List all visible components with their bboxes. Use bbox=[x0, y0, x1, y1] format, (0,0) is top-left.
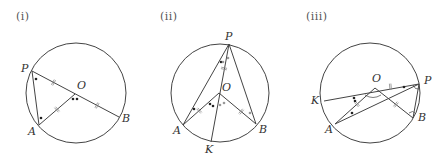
equal-tick-mark bbox=[391, 84, 392, 90]
figure-ii bbox=[171, 44, 269, 142]
point-label-A: A bbox=[172, 124, 181, 137]
segment-OB bbox=[375, 88, 413, 118]
segment-AO bbox=[335, 88, 375, 124]
angle-dot-marker bbox=[35, 78, 38, 81]
point-label-B: B bbox=[417, 111, 426, 124]
point-label-A: A bbox=[27, 125, 36, 138]
angle-dot-marker bbox=[219, 104, 222, 107]
circle bbox=[26, 43, 126, 143]
angle-dot-marker bbox=[227, 57, 230, 60]
point-label-P: P bbox=[423, 74, 432, 87]
point-label-B: B bbox=[121, 112, 130, 125]
angle-dot-marker bbox=[351, 112, 354, 115]
angle-dot-marker bbox=[76, 98, 79, 101]
angle-dot-marker bbox=[223, 102, 226, 105]
point-label-A: A bbox=[324, 123, 333, 136]
segment-PB bbox=[32, 71, 119, 117]
angle-dot-marker bbox=[354, 100, 357, 103]
segment-AO bbox=[39, 94, 75, 125]
point-label-K: K bbox=[204, 143, 214, 154]
angle-dot-marker bbox=[209, 103, 212, 106]
point-label-O: O bbox=[77, 79, 86, 92]
equal-tick-mark bbox=[389, 84, 390, 90]
point-label-O: O bbox=[222, 81, 231, 94]
geometry-figures: PAOBPAOBKPAOBK bbox=[0, 0, 448, 154]
figure-iii bbox=[320, 43, 420, 143]
angle-dot-marker bbox=[222, 61, 225, 64]
point-label-P: P bbox=[20, 62, 29, 75]
angle-dot-marker bbox=[40, 117, 43, 120]
figure-i bbox=[26, 43, 126, 143]
angle-dot-marker bbox=[353, 97, 356, 100]
angle-dot-marker bbox=[403, 86, 406, 89]
segment-OA bbox=[183, 93, 219, 125]
point-label-K: K bbox=[310, 94, 320, 107]
angle-dot-marker bbox=[212, 105, 215, 108]
angle-dot-marker bbox=[249, 112, 252, 115]
angle-dot-marker bbox=[72, 98, 75, 101]
point-label-P: P bbox=[224, 30, 233, 43]
point-label-B: B bbox=[258, 123, 267, 136]
point-label-O: O bbox=[372, 72, 381, 85]
angle-dot-marker bbox=[193, 108, 196, 111]
